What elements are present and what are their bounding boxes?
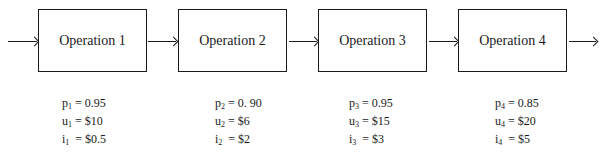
u1-line: u1 = $10 xyxy=(62,114,106,132)
i4-line: i4 = $5 xyxy=(495,132,539,150)
operation-1-params: p1 = 0.95 u1 = $10 i1 = $0.5 xyxy=(62,96,106,150)
operation-4-label: Operation 4 xyxy=(479,33,545,49)
p1-line: p1 = 0.95 xyxy=(62,96,106,114)
operation-3-params: p3 = 0.95 u3 = $15 i3 = $3 xyxy=(349,96,393,150)
operation-1-label: Operation 1 xyxy=(59,33,125,49)
i3-line: i3 = $3 xyxy=(349,132,393,150)
operation-4-box: Operation 4 xyxy=(458,9,567,72)
operation-1-box: Operation 1 xyxy=(38,9,147,72)
operation-2-label: Operation 2 xyxy=(199,33,265,49)
operation-2-box: Operation 2 xyxy=(178,9,287,72)
p4-line: p4 = 0.85 xyxy=(495,96,539,114)
p2-line: p2 = 0. 90 xyxy=(215,96,262,114)
u3-line: u3 = $15 xyxy=(349,114,393,132)
p3-line: p3 = 0.95 xyxy=(349,96,393,114)
operation-4-params: p4 = 0.85 u4 = $20 i4 = $5 xyxy=(495,96,539,150)
u2-line: u2 = $6 xyxy=(215,114,262,132)
arrow-op1-op2 xyxy=(148,41,176,42)
operation-3-box: Operation 3 xyxy=(318,9,427,72)
i2-line: i2 = $2 xyxy=(215,132,262,150)
output-arrow xyxy=(569,41,596,42)
u4-line: u4 = $20 xyxy=(495,114,539,132)
arrow-op3-op4 xyxy=(429,41,457,42)
operation-2-params: p2 = 0. 90 u2 = $6 i2 = $2 xyxy=(215,96,262,150)
arrow-op2-op3 xyxy=(289,41,317,42)
i1-line: i1 = $0.5 xyxy=(62,132,106,150)
operation-3-label: Operation 3 xyxy=(339,33,405,49)
input-arrow xyxy=(8,41,37,42)
